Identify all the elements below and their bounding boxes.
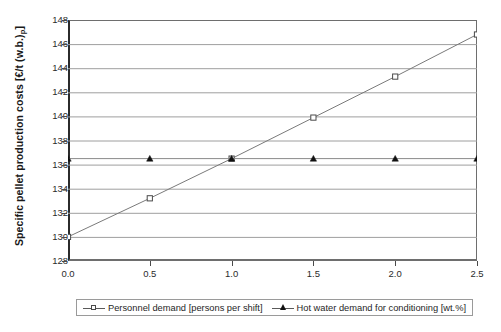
x-tick-mark: [232, 261, 233, 266]
y-tick-mark: [62, 237, 67, 238]
y-tick-mark: [62, 68, 67, 69]
legend-marker-filled-triangle-icon: [272, 303, 294, 313]
x-tick-label: 2.0: [375, 268, 415, 279]
legend-entry: Hot water demand for conditioning [wt.%]: [272, 303, 467, 313]
data-point-marker-square: [147, 196, 152, 201]
x-tick-label: 0.5: [130, 268, 170, 279]
x-tick-mark: [395, 261, 396, 266]
plot-area: [68, 20, 477, 261]
legend-label: Hot water demand for conditioning [wt.%]: [297, 303, 467, 313]
legend-key-symbol: [91, 305, 96, 310]
chart-figure: Specific pellet production costs [€/t (w…: [0, 0, 501, 332]
y-tick-mark: [62, 213, 67, 214]
x-tick-label: 1.5: [293, 268, 333, 279]
x-tick-label: 0.0: [48, 268, 88, 279]
y-tick-mark: [62, 92, 67, 93]
x-tick-label: 1.0: [212, 268, 252, 279]
x-tick-mark: [477, 261, 478, 266]
y-tick-mark: [62, 116, 67, 117]
legend-key-symbol: [280, 304, 286, 310]
y-tick-mark: [62, 44, 67, 45]
plot-canvas: [68, 20, 477, 261]
y-tick-mark: [62, 189, 67, 190]
data-point-marker-square: [393, 74, 398, 79]
y-axis-ticks: 148146144142140138136134132130128: [0, 0, 68, 265]
data-point-marker-square: [68, 234, 71, 239]
x-axis-ticks: 0.00.51.01.52.02.5: [0, 261, 501, 281]
data-point-marker-square: [311, 115, 316, 120]
x-tick-mark: [313, 261, 314, 266]
y-tick-mark: [62, 141, 67, 142]
x-tick-label: 2.5: [457, 268, 497, 279]
y-tick-mark: [62, 165, 67, 166]
legend-marker-open-square-icon: [83, 303, 105, 313]
data-point-marker-square: [474, 32, 477, 37]
series-line-1: [68, 35, 477, 237]
legend-entry: Personnel demand [persons per shift]: [83, 303, 263, 313]
x-tick-mark: [150, 261, 151, 266]
y-tick-mark: [62, 20, 67, 21]
legend-label: Personnel demand [persons per shift]: [108, 303, 263, 313]
chart-legend: Personnel demand [persons per shift]Hot …: [76, 299, 473, 316]
